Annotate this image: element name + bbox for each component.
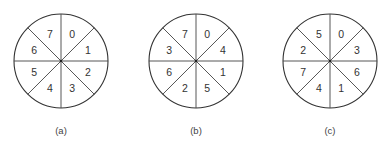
center-point: [195, 60, 198, 63]
sector-label: 0: [69, 28, 75, 40]
sector-label: 1: [338, 82, 344, 94]
disk-caption: (a): [55, 125, 67, 136]
sector-label: 1: [220, 66, 226, 78]
sector-label: 5: [316, 28, 322, 40]
sector-label: 4: [220, 44, 226, 56]
sector-label: 5: [204, 82, 210, 94]
sector-label: 2: [182, 82, 188, 94]
sector-label: 3: [354, 44, 360, 56]
sector-label: 2: [85, 66, 91, 78]
disk-a: 01234567(a): [14, 14, 108, 136]
disk-caption: (b): [190, 125, 202, 136]
sector-label: 4: [316, 82, 322, 94]
sector-label: 6: [354, 66, 360, 78]
center-point: [329, 60, 332, 63]
sector-label: 6: [166, 66, 172, 78]
sector-label: 3: [166, 44, 172, 56]
center-point: [60, 60, 63, 63]
sector-label: 7: [182, 28, 188, 40]
disk-c: 03614725(c): [283, 14, 377, 136]
sector-label: 0: [338, 28, 344, 40]
sector-label: 7: [47, 28, 53, 40]
sector-label: 1: [85, 44, 91, 56]
diagram-canvas: 01234567(a)04152637(b)03614725(c): [0, 0, 388, 147]
sector-label: 0: [204, 28, 210, 40]
sector-label: 4: [47, 82, 53, 94]
sector-label: 7: [300, 66, 306, 78]
sector-label: 5: [31, 66, 37, 78]
disk-b: 04152637(b): [149, 14, 243, 136]
sector-label: 3: [69, 82, 75, 94]
sector-label: 6: [31, 44, 37, 56]
disk-caption: (c): [324, 125, 335, 136]
sector-label: 2: [300, 44, 306, 56]
